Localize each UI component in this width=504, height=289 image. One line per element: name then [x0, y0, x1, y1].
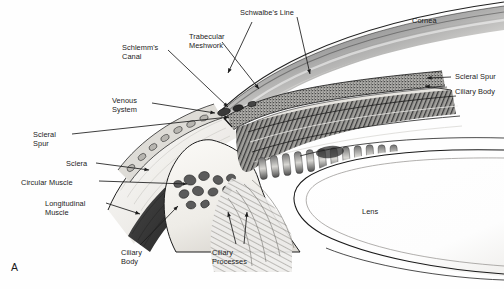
label-schwalbes-line: Schwalbe's Line	[240, 9, 294, 18]
label-sclera: Sclera	[66, 160, 87, 169]
label-ciliary-body-left: Ciliary Body	[121, 249, 142, 266]
label-trabecular-meshwork: Trabecular Meshwork	[189, 33, 225, 50]
label-cornea: Cornea	[412, 17, 437, 26]
label-ciliary-body-right: Ciliary Body	[455, 88, 495, 97]
anatomy-figure: Schlemm's CanalVenous SystemScleral Spur…	[0, 0, 504, 289]
label-venous-system: Venous System	[112, 97, 137, 114]
panel-label: A	[11, 261, 18, 273]
label-scleral-spur-right: Scleral Spur	[455, 73, 496, 82]
label-scleral-spur-left: Scleral Spur	[33, 131, 56, 148]
label-ciliary-processes: Ciliary Processes	[212, 249, 247, 266]
label-lens: Lens	[362, 208, 378, 217]
label-longitudinal-muscle: Longitudinal Muscle	[45, 200, 85, 217]
label-schlemms-canal: Schlemm's Canal	[122, 44, 158, 61]
label-circular-muscle: Circular Muscle	[21, 179, 73, 188]
eye-anatomy-illustration	[0, 0, 504, 289]
